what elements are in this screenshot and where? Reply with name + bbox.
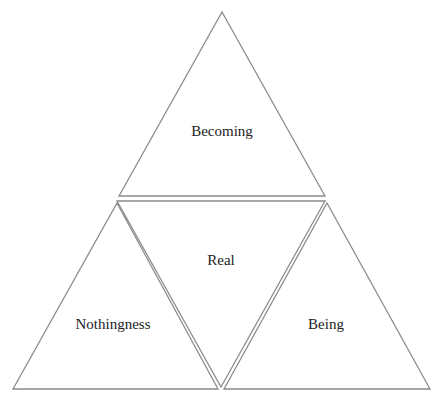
triangle-becoming <box>119 12 325 196</box>
triangle-being <box>224 203 430 389</box>
triangle-nothingness <box>13 203 218 389</box>
label-real: Real <box>207 252 235 269</box>
triangle-real <box>117 201 325 387</box>
label-nothingness: Nothingness <box>76 316 151 333</box>
label-being: Being <box>308 316 344 333</box>
triangle-diagram <box>0 0 446 403</box>
label-becoming: Becoming <box>191 123 253 140</box>
